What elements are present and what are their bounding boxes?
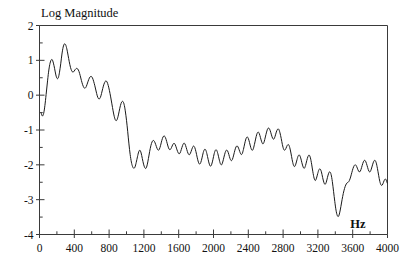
y-tick-label: -1 (24, 124, 34, 136)
x-axis-title: Hz (350, 217, 366, 231)
x-tick-label: 1600 (167, 242, 190, 254)
chart-background (0, 0, 416, 272)
y-tick-label: -3 (24, 194, 34, 206)
y-tick-label: -4 (24, 229, 34, 241)
y-tick-label: -2 (24, 159, 34, 171)
x-tick-label: 2000 (202, 242, 225, 254)
x-tick-label: 3600 (341, 242, 364, 254)
x-tick-label: 1200 (132, 242, 155, 254)
y-tick-label: 1 (28, 54, 34, 66)
spectrum-chart: 040080012001600200024002800320036004000 … (0, 0, 416, 272)
x-tick-label: 2800 (272, 242, 295, 254)
x-tick-label: 800 (100, 242, 118, 254)
x-tick-label: 3200 (306, 242, 329, 254)
chart-figure: 040080012001600200024002800320036004000 … (0, 0, 416, 272)
y-tick-label: 0 (28, 89, 34, 101)
x-tick-label: 4000 (376, 242, 399, 254)
y-tick-label: 2 (28, 20, 34, 32)
x-tick-label: 2400 (237, 242, 260, 254)
x-tick-label: 400 (66, 242, 84, 254)
x-tick-label: 0 (37, 242, 43, 254)
y-axis-title: Log Magnitude (41, 6, 119, 20)
